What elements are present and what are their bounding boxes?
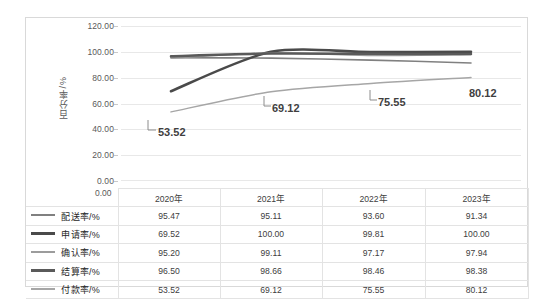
series-label: 付款率/%: [61, 285, 100, 295]
cell-value: 95.11: [220, 207, 322, 225]
legend-row-fukuanlv: 付款率/%: [26, 280, 118, 298]
legend-line-icon: [31, 251, 55, 253]
y-tick-mark: [114, 52, 118, 53]
y-tick-label-100: 100.00: [87, 47, 114, 57]
legend-row-shenqinglv: 申请率/%: [26, 225, 118, 243]
cell-value: 80.12: [425, 280, 528, 298]
legend-row-querenlv: 确认率/%: [26, 244, 118, 262]
y-tick-mark: [114, 129, 118, 130]
legend-line-icon: [31, 269, 55, 272]
table-corner-cell: 0.00: [26, 189, 118, 207]
table-header-row: 0.00 2020年 2021年 2022年 2023年: [26, 189, 528, 207]
data-label-4: 80.12: [469, 87, 497, 99]
legend-line-icon: [31, 214, 55, 216]
cell-value: 69.52: [118, 225, 220, 243]
y-tick-mark: [114, 155, 118, 156]
y-axis-title: 百分率/%: [56, 76, 69, 119]
series-line: [171, 53, 471, 56]
series-line: [171, 58, 471, 63]
cell-value: 53.52: [118, 280, 220, 298]
table-row: 配送率/% 95.47 95.11 93.60 91.34: [26, 207, 528, 225]
cell-value: 96.50: [118, 262, 220, 280]
legend-line-icon: [31, 288, 55, 290]
cell-value: 93.60: [322, 207, 425, 225]
y-tick-label-120: 120.00: [87, 21, 114, 31]
y-tick-mark: [114, 104, 118, 105]
cell-value: 98.46: [322, 262, 425, 280]
series-label: 确认率/%: [61, 248, 100, 258]
y-tick-label-40: 40.00: [92, 124, 114, 134]
series-label: 申请率/%: [61, 230, 100, 240]
y-tick-mark: [114, 78, 118, 79]
data-label-3: 75.55: [378, 96, 406, 108]
legend-row-peisonglv: 配送率/%: [26, 207, 118, 225]
column-header-2023: 2023年: [425, 189, 528, 207]
cell-value: 98.66: [220, 262, 322, 280]
cell-value: 97.94: [425, 244, 528, 262]
y-tick-mark: [114, 181, 118, 182]
y-axis: 百分率/% 120.00 100.00 80.00 60.00 40.00 20…: [26, 26, 118, 181]
cell-value: 75.55: [322, 280, 425, 298]
y-tick-label-0: 0.00: [97, 176, 114, 186]
cell-value: 98.38: [425, 262, 528, 280]
data-label-1: 53.52: [158, 126, 186, 138]
y-tick-label-80: 80.00: [92, 73, 114, 83]
column-header-2020: 2020年: [118, 189, 220, 207]
zero-axis-label: 0.00: [95, 188, 112, 198]
cell-value: 95.47: [118, 207, 220, 225]
cell-value: 69.12: [220, 280, 322, 298]
column-header-2022: 2022年: [322, 189, 425, 207]
legend-line-icon: [31, 232, 55, 235]
data-label-2: 69.12: [272, 102, 300, 114]
cell-value: 99.11: [220, 244, 322, 262]
y-tick-mark: [114, 26, 118, 27]
table-row: 结算率/% 96.50 98.66 98.46 98.38: [26, 262, 528, 280]
cell-value: 99.81: [322, 225, 425, 243]
series-label: 结算率/%: [61, 267, 100, 277]
data-table: 0.00 2020年 2021年 2022年 2023年 配送率/% 95.47…: [26, 188, 529, 299]
y-tick-label-60: 60.00: [92, 99, 114, 109]
plot-area: [121, 26, 521, 181]
cell-value: 91.34: [425, 207, 528, 225]
table-row: 申请率/% 69.52 100.00 99.81 100.00: [26, 225, 528, 243]
table-row: 确认率/% 95.20 99.11 97.17 97.94: [26, 244, 528, 262]
table-row: 付款率/% 53.52 69.12 75.55 80.12: [26, 280, 528, 298]
cell-value: 100.00: [425, 225, 528, 243]
series-label: 配送率/%: [61, 212, 100, 222]
y-tick-label-20: 20.00: [92, 150, 114, 160]
legend-row-jiesuanlv: 结算率/%: [26, 262, 118, 280]
cell-value: 97.17: [322, 244, 425, 262]
series-lines: [121, 26, 521, 181]
cell-value: 100.00: [220, 225, 322, 243]
cell-value: 95.20: [118, 244, 220, 262]
series-line: [171, 78, 471, 112]
chart-container: 百分率/% 120.00 100.00 80.00 60.00 40.00 20…: [25, 17, 528, 287]
column-header-2021: 2021年: [220, 189, 322, 207]
